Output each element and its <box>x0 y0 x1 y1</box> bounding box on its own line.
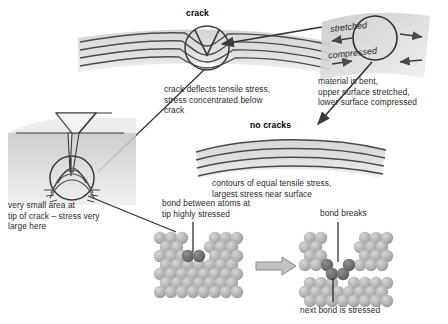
diagram-graphics <box>0 0 448 324</box>
bond-breaks-caption: bond breaks <box>320 208 410 219</box>
atoms-before-caption: bond between atoms at tip highly stresse… <box>162 198 292 219</box>
no-cracks-beam-panel <box>196 140 386 178</box>
transition-arrow <box>256 257 296 275</box>
atoms-after-lattice <box>299 222 393 307</box>
atoms-before-lattice <box>154 222 243 298</box>
bent-material-caption: material is bent, upper surface stretche… <box>318 76 446 108</box>
crack-deflects-caption: crack deflects tensile stress, stress co… <box>164 84 314 116</box>
crack-tip-caption: very small area at tip of crack – stress… <box>8 200 136 232</box>
diagram-canvas: crack stretched compressed material is b… <box>0 0 448 324</box>
no-cracks-title: no cracks <box>250 120 291 130</box>
no-cracks-caption: contours of equal tensile stress, larges… <box>212 178 392 199</box>
crack-title: crack <box>186 8 209 18</box>
next-bond-caption: next bond is stressed <box>300 305 440 316</box>
